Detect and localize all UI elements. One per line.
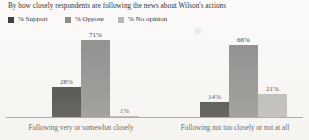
plot-area: 28% 71% 1% 14% 66% 21% (0, 30, 309, 118)
bar-oppose-0 (81, 40, 110, 117)
legend-label-support: % Support (18, 16, 48, 23)
legend-swatch-no-opinion-icon (118, 17, 124, 23)
bar-oppose-1 (229, 45, 258, 117)
bar-no-opinion-1 (258, 94, 287, 117)
bar-group-following-closely: 28% 71% 1% (18, 30, 144, 117)
legend-swatch-support-icon (8, 17, 14, 23)
legend-swatch-oppose-icon (65, 17, 71, 23)
bar-value-support-0: 28% (60, 78, 73, 86)
legend-item-oppose: % Oppose (65, 16, 104, 23)
bar-value-oppose-1: 66% (237, 36, 250, 44)
x-axis-baseline (6, 117, 303, 118)
bar-value-no-opinion-0: 1% (120, 107, 129, 115)
bar-value-support-1: 14% (208, 93, 221, 101)
bar-support-1 (200, 102, 229, 117)
chart-title: By how closely respondents are following… (8, 2, 226, 10)
bar-value-oppose-0: 71% (89, 31, 102, 39)
legend-label-oppose: % Oppose (75, 16, 104, 23)
bar-chart: By how closely respondents are following… (0, 0, 309, 140)
bar-support-0 (52, 87, 81, 117)
bar-group-not-following-closely: 14% 66% 21% (172, 30, 298, 117)
bar-value-no-opinion-1: 21% (266, 85, 279, 93)
legend-item-support: % Support (8, 16, 48, 23)
legend-label-no-opinion: % No opinion (128, 16, 167, 23)
legend-item-no-opinion: % No opinion (118, 16, 167, 23)
x-axis-label-not-following-closely: Following not too closely or not at all (164, 124, 306, 132)
x-axis-label-following-closely: Following very or somewhat closely (14, 124, 148, 132)
